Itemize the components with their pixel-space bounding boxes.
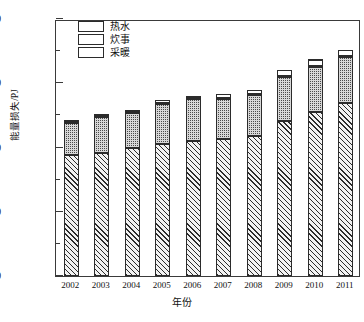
y-tick-label: 2000 bbox=[0, 15, 1, 25]
legend-item: 热水 bbox=[78, 21, 130, 32]
bar-segment-采暖 bbox=[94, 153, 109, 276]
bar-segment-炊事 bbox=[155, 104, 170, 143]
legend-item: 炊事 bbox=[78, 34, 130, 45]
bar-segment-热水 bbox=[338, 50, 353, 57]
bar-segment-热水 bbox=[64, 120, 79, 123]
bar-2008 bbox=[247, 90, 262, 276]
y-tick-minor bbox=[56, 114, 60, 115]
bar-segment-炊事 bbox=[247, 95, 262, 135]
y-tick-major bbox=[56, 275, 63, 276]
dark-checker-swatch bbox=[78, 34, 104, 45]
y-tick-label: 0 bbox=[0, 272, 1, 282]
bar-segment-热水 bbox=[277, 70, 292, 77]
bar-2011 bbox=[338, 50, 353, 276]
bar-2010 bbox=[308, 59, 323, 276]
bar-segment-热水 bbox=[155, 100, 170, 104]
y-tick-minor bbox=[56, 50, 60, 51]
legend-label: 炊事 bbox=[110, 34, 130, 45]
legend-label: 热水 bbox=[110, 21, 130, 32]
bar-segment-炊事 bbox=[186, 99, 201, 141]
bar-segment-采暖 bbox=[125, 148, 140, 277]
y-tick-label: 500 bbox=[0, 208, 1, 218]
bar-segment-炊事 bbox=[94, 117, 109, 152]
y-tick-major bbox=[56, 211, 63, 212]
y-tick-minor bbox=[56, 179, 60, 180]
bar-2005 bbox=[155, 100, 170, 276]
bar-2007 bbox=[216, 94, 231, 276]
legend-item: 采暖 bbox=[78, 47, 130, 58]
bar-segment-采暖 bbox=[247, 136, 262, 276]
chart-legend: 热水炊事采暖 bbox=[78, 21, 130, 60]
bar-segment-热水 bbox=[247, 90, 262, 96]
bar-segment-热水 bbox=[186, 96, 201, 99]
bar-segment-炊事 bbox=[308, 67, 323, 112]
y-tick-major bbox=[56, 82, 63, 83]
legend-label: 采暖 bbox=[110, 47, 130, 58]
y-tick-label: 1000 bbox=[0, 144, 1, 154]
diagonal-hatch-swatch bbox=[78, 47, 104, 58]
bar-2009 bbox=[277, 70, 292, 276]
bar-2004 bbox=[125, 110, 140, 276]
bar-segment-采暖 bbox=[216, 139, 231, 276]
stacked-bar-chart: 能量损失/PJ 0500100015002000 200220032004200… bbox=[0, 0, 364, 322]
horizontal-lines-swatch bbox=[78, 21, 104, 32]
bar-segment-采暖 bbox=[277, 121, 292, 276]
bar-2003 bbox=[94, 114, 109, 276]
bar-2002 bbox=[64, 120, 79, 276]
bar-segment-热水 bbox=[308, 59, 323, 67]
x-axis-title: 年份 bbox=[0, 298, 364, 308]
bar-segment-采暖 bbox=[338, 103, 353, 276]
bar-segment-热水 bbox=[125, 110, 140, 114]
bar-segment-炊事 bbox=[277, 77, 292, 121]
bar-segment-采暖 bbox=[186, 141, 201, 276]
bar-segment-热水 bbox=[216, 94, 231, 99]
y-tick-major bbox=[56, 18, 63, 19]
bar-segment-采暖 bbox=[155, 144, 170, 276]
bar-segment-炊事 bbox=[125, 113, 140, 147]
bar-segment-热水 bbox=[94, 114, 109, 117]
bar-segment-炊事 bbox=[216, 99, 231, 139]
bar-segment-采暖 bbox=[308, 112, 323, 276]
bar-2006 bbox=[186, 96, 201, 276]
x-tick-label: 2011 bbox=[325, 281, 364, 290]
y-tick-major bbox=[56, 147, 63, 148]
y-axis-title: 能量损失/PJ bbox=[10, 70, 20, 160]
y-tick-label: 1500 bbox=[0, 79, 1, 89]
bar-segment-炊事 bbox=[64, 123, 79, 154]
bar-segment-炊事 bbox=[338, 57, 353, 103]
bar-segment-采暖 bbox=[64, 155, 79, 276]
y-tick-minor bbox=[56, 243, 60, 244]
